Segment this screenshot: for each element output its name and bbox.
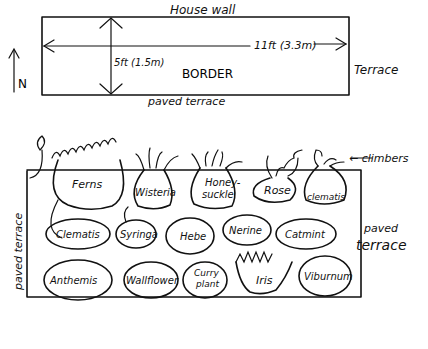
svg-text:Rose: Rose	[264, 184, 291, 197]
climber-tendrils-icon	[136, 148, 178, 170]
svg-text:Honey-: Honey-	[205, 177, 241, 188]
plant-wallflower: Wallflower	[124, 262, 179, 298]
svg-text:Hebe: Hebe	[180, 231, 206, 242]
paved-terrace-label: paved terrace	[147, 95, 225, 108]
svg-text:Catmint: Catmint	[285, 229, 326, 240]
left-paved-terrace-label: paved terrace	[12, 213, 25, 291]
svg-text:Wallflower: Wallflower	[126, 275, 179, 286]
svg-text:suckle: suckle	[202, 189, 234, 200]
plant-rose: Rose	[253, 150, 302, 202]
svg-text:Viburnum: Viburnum	[304, 271, 353, 282]
svg-text:Wisteria: Wisteria	[135, 187, 176, 198]
plant-anthemis: Anthemis	[44, 260, 112, 300]
bottom-planting-plan: ← climbers paved terrace paved terrace F…	[12, 136, 409, 300]
north-label: N	[18, 77, 27, 91]
garden-plan-diagram: House wall 11ft (3.3m) 5ft (1.5m) BORDER…	[0, 0, 428, 349]
climber-tendrils-icon	[267, 150, 302, 178]
climber-tendrils-icon	[314, 150, 344, 166]
border-label: BORDER	[182, 67, 233, 81]
svg-text:Syringa: Syringa	[120, 229, 158, 240]
svg-text:Nerine: Nerine	[229, 225, 262, 236]
plant-syringa: Syringa	[116, 207, 158, 248]
plant-nerine: Nerine	[223, 215, 271, 245]
svg-text:Anthemis: Anthemis	[49, 275, 97, 286]
plant-ferns: Ferns	[30, 136, 124, 238]
svg-text:clematis: clematis	[307, 192, 345, 202]
top-border-plan: House wall 11ft (3.3m) 5ft (1.5m) BORDER…	[9, 3, 398, 108]
svg-text:Iris: Iris	[256, 274, 273, 287]
plant-curry-plant: Curry plant	[183, 262, 227, 298]
terrace-label: Terrace	[354, 63, 398, 77]
plant-hebe: Hebe	[166, 218, 214, 254]
svg-text:Curry: Curry	[194, 268, 219, 278]
right-terrace-label: terrace	[356, 237, 407, 253]
climber-tendrils-icon	[192, 150, 242, 168]
plant-viburnum: Viburnum	[299, 256, 353, 296]
svg-text:Ferns: Ferns	[72, 178, 103, 191]
plant-honeysuckle: Honey- suckle	[191, 150, 242, 209]
width-label: 11ft (3.3m)	[254, 39, 316, 52]
climbers-label: ← climbers	[349, 152, 409, 165]
house-wall-label: House wall	[170, 3, 236, 17]
plant-catmint: Catmint	[276, 219, 336, 249]
right-paved-label: paved	[363, 222, 399, 235]
svg-text:plant: plant	[195, 279, 219, 289]
plant-iris: Iris	[236, 252, 292, 294]
svg-text:Clematis: Clematis	[56, 229, 100, 240]
fern-fronds-icon	[52, 138, 116, 158]
depth-label: 5ft (1.5m)	[114, 57, 164, 68]
plant-wisteria: Wisteria	[134, 148, 178, 209]
plant-clematis: Clematis	[46, 219, 110, 249]
plant-clematis-climber: clematis	[305, 150, 347, 204]
iris-leaves-icon	[236, 252, 272, 262]
border-outline	[42, 17, 349, 95]
leaf-tendril-icon	[30, 136, 45, 178]
